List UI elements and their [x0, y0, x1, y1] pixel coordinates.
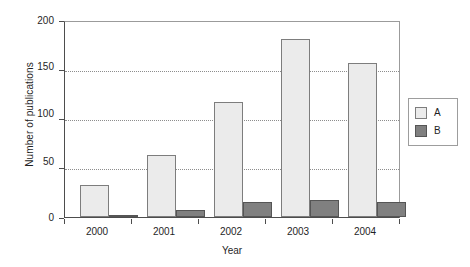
legend: A B	[408, 98, 458, 146]
bar-b-2000	[109, 215, 138, 217]
x-axis-tick-3	[265, 219, 266, 224]
y-axis-tick-label-150: 150	[4, 61, 54, 72]
x-axis-tick-2	[198, 219, 199, 224]
y-axis-tick-label-100: 100	[4, 108, 54, 119]
x-axis-tick-4	[332, 219, 333, 224]
bar-a-2004	[348, 63, 377, 217]
x-axis-title: Year	[64, 245, 400, 256]
bar-a-2001	[147, 155, 176, 217]
bar-a-2002	[214, 102, 243, 217]
bar-a-2000	[80, 185, 109, 217]
legend-item-b: B	[415, 125, 441, 137]
y-axis-tick-label-50: 50	[4, 156, 54, 167]
y-axis-tick-label-200: 200	[4, 15, 54, 26]
y-axis-tick-label-0: 0	[4, 212, 54, 223]
legend-item-a: A	[415, 107, 441, 119]
x-axis-tick-label-2003: 2003	[263, 226, 333, 237]
x-axis-tick-label-2002: 2002	[196, 226, 266, 237]
x-axis-tick-1	[131, 219, 132, 224]
x-axis-tick-5	[399, 219, 400, 224]
plot-area	[64, 21, 400, 218]
x-axis-tick-label-2004: 2004	[330, 226, 400, 237]
bar-b-2001	[176, 210, 205, 217]
bar-b-2004	[377, 202, 406, 217]
legend-label-a: A	[434, 107, 441, 119]
x-axis-tick-0	[64, 219, 65, 224]
bar-b-2002	[243, 202, 272, 217]
legend-swatch-b-icon	[415, 125, 427, 137]
x-axis-tick-label-2001: 2001	[129, 226, 199, 237]
legend-swatch-a-icon	[415, 107, 427, 119]
bar-chart-figure: Number of publications 200 150 100 50 0	[0, 0, 470, 267]
bar-b-2003	[310, 200, 339, 217]
legend-label-b: B	[434, 125, 441, 137]
x-axis-tick-label-2000: 2000	[62, 226, 132, 237]
bar-a-2003	[281, 39, 310, 217]
